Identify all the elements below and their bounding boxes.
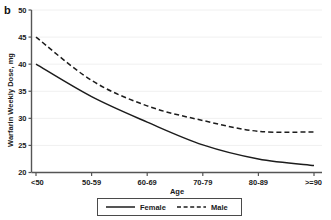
x-tick-label: <50: [31, 178, 44, 187]
y-axis-ticks: 20253035404550: [18, 6, 31, 178]
x-tick-label: 60-69: [138, 178, 157, 187]
x-tick-label: 50-59: [82, 178, 101, 187]
y-tick-label: 30: [18, 114, 26, 123]
y-tick-label: 50: [18, 6, 26, 15]
warfarin-dose-by-age-chart: b Warfarin Weekly Dose, mg 2025303540455…: [0, 0, 331, 220]
y-tick-label: 45: [18, 33, 26, 42]
x-tick-label: >=90: [305, 178, 322, 187]
y-axis-title: Warfarin Weekly Dose, mg: [6, 53, 15, 147]
legend-label-male: Male: [211, 203, 228, 212]
y-tick-label: 40: [18, 60, 26, 69]
y-tick-label: 20: [18, 168, 26, 177]
y-tick-label: 35: [18, 87, 26, 96]
series-layer: [36, 37, 314, 165]
gridlines: [32, 10, 323, 145]
x-axis-ticks: <5050-5960-6970-7980-89>=90: [31, 173, 322, 187]
x-tick-label: 70-79: [193, 178, 212, 187]
x-tick-label: 80-89: [249, 178, 268, 187]
x-axis-title: Age: [170, 187, 184, 196]
legend: Female Male: [98, 199, 242, 216]
panel-label: b: [4, 4, 11, 16]
legend-label-female: Female: [140, 203, 166, 212]
y-tick-label: 25: [18, 141, 26, 150]
